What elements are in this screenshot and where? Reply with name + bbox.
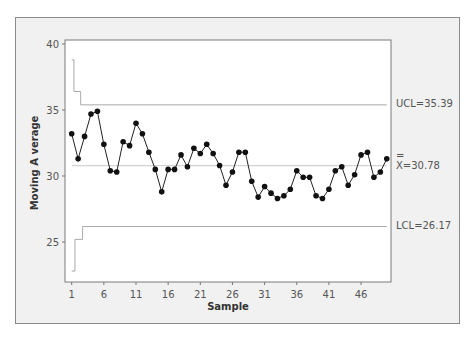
plot-area xyxy=(65,40,391,282)
data-point xyxy=(307,175,313,181)
y-tick-label: 40 xyxy=(46,39,59,50)
data-point xyxy=(236,149,242,155)
data-point xyxy=(288,186,294,192)
x-axis-title: Sample xyxy=(207,301,249,312)
x-tick-label: 6 xyxy=(101,289,107,300)
data-point xyxy=(268,190,274,196)
data-point xyxy=(275,196,281,202)
data-point xyxy=(294,168,300,174)
x-tick-label: 21 xyxy=(194,289,207,300)
data-point xyxy=(95,109,101,115)
data-point xyxy=(339,164,345,170)
data-point xyxy=(281,193,287,199)
data-point xyxy=(101,142,107,148)
data-point xyxy=(165,167,171,173)
data-point xyxy=(185,164,191,170)
y-tick-label: 35 xyxy=(46,105,59,116)
data-point xyxy=(320,196,326,202)
y-tick-label: 30 xyxy=(46,171,59,182)
y-axis: 25303540 xyxy=(46,39,65,248)
data-point xyxy=(352,172,358,178)
data-point xyxy=(223,182,229,188)
data-point xyxy=(378,169,384,175)
data-point xyxy=(300,175,306,181)
data-point xyxy=(243,149,249,155)
x-tick-label: 36 xyxy=(290,289,303,300)
data-point xyxy=(333,168,339,174)
data-point xyxy=(255,194,261,200)
data-point xyxy=(191,145,197,151)
data-point xyxy=(313,193,319,199)
data-point xyxy=(262,184,268,190)
data-point xyxy=(249,178,255,184)
centerline-label: X=30.78 xyxy=(396,160,440,171)
data-point xyxy=(172,167,178,173)
data-point xyxy=(198,151,204,157)
data-point xyxy=(114,169,120,175)
data-point xyxy=(358,152,364,158)
data-point xyxy=(75,156,81,162)
data-point xyxy=(230,169,236,175)
data-point xyxy=(217,163,223,169)
data-point xyxy=(159,189,165,195)
x-tick-label: 46 xyxy=(355,289,368,300)
y-axis-title: Moving A verage xyxy=(29,115,40,210)
x-tick-label: 31 xyxy=(258,289,271,300)
x-tick-label: 26 xyxy=(226,289,239,300)
data-point xyxy=(120,139,126,145)
data-point xyxy=(140,131,146,137)
data-point xyxy=(82,134,88,140)
data-point xyxy=(133,120,139,126)
data-point xyxy=(69,131,75,137)
data-point xyxy=(210,151,216,157)
data-point xyxy=(326,186,332,192)
x-tick-label: 11 xyxy=(130,289,143,300)
moving-average-chart: 25303540 161116212631364146 Sample Movin… xyxy=(0,0,473,340)
data-point xyxy=(152,167,158,173)
x-axis: 161116212631364146 xyxy=(69,282,368,300)
data-point xyxy=(371,175,377,181)
data-point xyxy=(178,152,184,158)
data-point xyxy=(384,156,390,162)
data-point xyxy=(88,111,94,117)
x-tick-label: 41 xyxy=(323,289,336,300)
data-point xyxy=(107,168,113,174)
lcl-label: LCL=26.17 xyxy=(396,220,451,231)
data-point xyxy=(345,182,351,188)
data-point xyxy=(204,142,210,148)
x-tick-label: 1 xyxy=(69,289,75,300)
x-tick-label: 16 xyxy=(162,289,175,300)
ucl-label: UCL=35.39 xyxy=(396,98,453,109)
data-point xyxy=(146,149,152,155)
data-point xyxy=(365,149,371,155)
data-point xyxy=(127,143,133,149)
y-tick-label: 25 xyxy=(46,237,59,248)
